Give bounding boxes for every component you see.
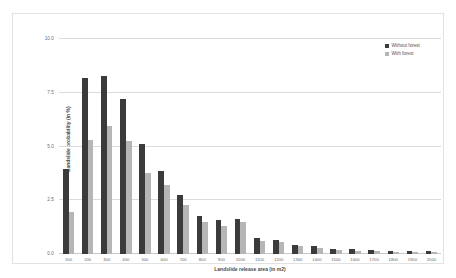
bar-with-forest bbox=[164, 185, 170, 254]
legend-swatch-icon bbox=[385, 52, 389, 56]
legend-label: With forest bbox=[392, 51, 414, 56]
y-tick-label: 10.0 bbox=[45, 36, 54, 41]
bar-group: 1300 bbox=[292, 39, 303, 254]
x-tick-label: 1200 bbox=[274, 257, 283, 262]
bar-with-forest bbox=[202, 222, 208, 254]
x-axis-title: Landslide release area (in m2) bbox=[59, 266, 441, 272]
bar-with-forest bbox=[69, 212, 75, 254]
x-tick-label: 1100 bbox=[255, 257, 264, 262]
bar-group: 600 bbox=[158, 39, 169, 254]
y-tick-label: 7.5 bbox=[47, 89, 54, 94]
x-tick-label: 900 bbox=[218, 257, 225, 262]
bar-group: 500 bbox=[139, 39, 150, 254]
bars-layer: 1002003004005006007008009001000110012001… bbox=[59, 39, 441, 254]
bar-with-forest bbox=[145, 173, 151, 254]
bar-with-forest bbox=[336, 250, 342, 254]
y-tick-label: 5.0 bbox=[47, 143, 54, 148]
plot-area: 0.02.55.07.510.0 10020030040050060070080… bbox=[59, 39, 441, 254]
x-tick-label: 1600 bbox=[350, 257, 359, 262]
bar-group: 200 bbox=[82, 39, 93, 254]
bar-with-forest bbox=[279, 242, 285, 254]
bar-with-forest bbox=[431, 252, 437, 254]
bar-group: 1600 bbox=[349, 39, 360, 254]
bar-group: 900 bbox=[216, 39, 227, 254]
bar-group: 1400 bbox=[311, 39, 322, 254]
x-tick-label: 1000 bbox=[236, 257, 245, 262]
bar-group: 1500 bbox=[330, 39, 341, 254]
bar-with-forest bbox=[317, 248, 323, 254]
x-tick-label: 700 bbox=[180, 257, 187, 262]
bar-with-forest bbox=[393, 252, 399, 254]
x-tick-label: 500 bbox=[141, 257, 148, 262]
bar-group: 1000 bbox=[235, 39, 246, 254]
x-tick-label: 1900 bbox=[408, 257, 417, 262]
x-tick-label: 200 bbox=[84, 257, 91, 262]
chart-frame: Landslide probability (in %) 0.02.55.07.… bbox=[12, 13, 444, 264]
legend-label: Without forest bbox=[392, 43, 420, 48]
x-tick-label: 1800 bbox=[389, 257, 398, 262]
bar-with-forest bbox=[412, 252, 418, 254]
bar-with-forest bbox=[240, 222, 246, 254]
chart-figure: Landslide probability (in %) 0.02.55.07.… bbox=[0, 0, 456, 278]
bar-with-forest bbox=[260, 241, 266, 254]
bar-group: 1200 bbox=[273, 39, 284, 254]
bar-with-forest bbox=[355, 251, 361, 254]
bar-with-forest bbox=[88, 140, 94, 254]
bar-with-forest bbox=[298, 246, 304, 254]
x-tick-label: 300 bbox=[103, 257, 110, 262]
bar-group: 700 bbox=[177, 39, 188, 254]
y-tick-label: 0.0 bbox=[47, 251, 54, 256]
legend-entry: Without forest bbox=[385, 43, 420, 48]
x-tick-label: 600 bbox=[161, 257, 168, 262]
y-tick-label: 2.5 bbox=[47, 197, 54, 202]
bar-group: 1900 bbox=[407, 39, 418, 254]
bar-group: 400 bbox=[120, 39, 131, 254]
x-tick-label: 2000 bbox=[427, 257, 436, 262]
x-tick-label: 800 bbox=[199, 257, 206, 262]
x-tick-label: 1700 bbox=[369, 257, 378, 262]
x-tick-label: 1300 bbox=[293, 257, 302, 262]
x-tick-label: 1400 bbox=[312, 257, 321, 262]
bar-group: 1700 bbox=[368, 39, 379, 254]
legend-swatch-icon bbox=[385, 44, 389, 48]
bar-group: 1100 bbox=[254, 39, 265, 254]
bar-group: 2000 bbox=[426, 39, 437, 254]
chart-legend: Without forestWith forest bbox=[385, 43, 420, 56]
bar-group: 800 bbox=[197, 39, 208, 254]
bar-group: 100 bbox=[63, 39, 74, 254]
bar-with-forest bbox=[221, 226, 227, 254]
bar-with-forest bbox=[107, 126, 113, 254]
bar-with-forest bbox=[126, 141, 132, 254]
x-tick-label: 1500 bbox=[331, 257, 340, 262]
x-tick-label: 100 bbox=[65, 257, 72, 262]
legend-entry: With forest bbox=[385, 51, 420, 56]
bar-with-forest bbox=[374, 251, 380, 254]
x-tick-label: 400 bbox=[122, 257, 129, 262]
bar-group: 300 bbox=[101, 39, 112, 254]
bar-group: 1800 bbox=[388, 39, 399, 254]
bar-with-forest bbox=[183, 205, 189, 254]
